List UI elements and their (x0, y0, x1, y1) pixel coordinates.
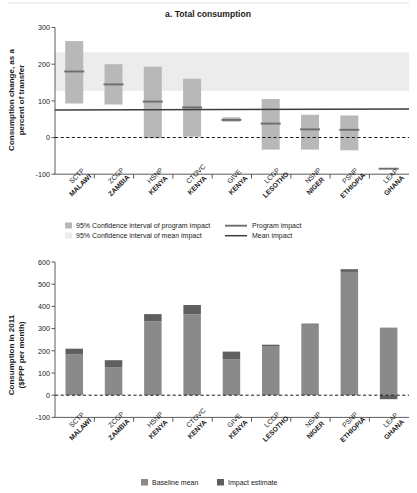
cat-b-3: CTOVC KENYA (180, 407, 213, 440)
bar-impact-zcgp-zambia (105, 360, 123, 367)
panel-b-ytick-300: 300 (38, 324, 50, 333)
panel-b-ytick-200: 200 (38, 347, 50, 356)
panel-a: a. Total consumption Consumption change,… (7, 9, 409, 240)
legend-label-mean-ci: 95% Confidence interval of mean impact (76, 232, 202, 240)
panel-b-ytick-600: 600 (38, 258, 50, 267)
panel-a-legend: 95% Confidence interval of program impac… (65, 222, 301, 240)
bar-impact-psnp-ethiopia (341, 269, 359, 272)
panel-b-y-ticks: 600 500 400 300 200 100 0 -100 (36, 258, 55, 422)
panel-b-ytick-0: 0 (46, 391, 50, 400)
legend-swatch-program-ci (65, 223, 72, 229)
cat-a-8: LEAP GHANA (376, 167, 406, 197)
legend-label-mean-impact: Mean impact (252, 232, 292, 240)
bar-impact-lcgp-lesotho (262, 345, 280, 346)
cat-b-0: SCTP MALAWI (61, 410, 92, 441)
panel-a-y-ticks: 300 200 100 0 -100 (36, 23, 55, 179)
panel-a-ytick-100: 100 (38, 97, 50, 106)
cat-b-6: NSNP NIGER (299, 410, 329, 440)
panel-b-y-axis-title-line1: Consumption in 2011 (7, 314, 16, 395)
legend-swatch-mean-ci (65, 233, 72, 239)
ci-box-nsnp-niger (301, 115, 319, 150)
panel-b-ytick-neg100: -100 (36, 413, 50, 422)
bar-baseline-sctp-malawi (66, 354, 84, 395)
panel-a-category-labels: SCTP MALAWI ZCGP ZAMBIA HSNP KENYA CTOVC… (61, 163, 405, 200)
cat-b-2: HSNP KENYA (141, 410, 171, 440)
cat-a-0: SCTP MALAWI (61, 166, 92, 197)
bar-baseline-psnp-ethiopia (341, 272, 359, 395)
cat-a-5: LCGP LESOTHO (255, 164, 290, 199)
bar-baseline-ctovc-kenya (183, 314, 201, 395)
bar-impact-sctp-malawi (66, 349, 84, 355)
panel-b: Consumption in 2011 ($PPP per month) 600… (7, 258, 409, 487)
legend-label-program-ci: 95% Confidence interval of program impac… (76, 222, 210, 230)
bar-impact-give-kenya (223, 352, 241, 360)
ci-box-psnp-ethiopia (340, 116, 358, 151)
panel-a-y-axis-title-line2: percent of transfer (17, 65, 26, 136)
bar-impact-hsnp-kenya (144, 314, 162, 321)
bar-impact-nsnp-niger (301, 324, 319, 325)
panel-b-category-labels: SCTP MALAWI ZCGP ZAMBIA HSNP KENYA CTOVC… (61, 407, 405, 444)
panel-a-ytick-200: 200 (38, 60, 50, 69)
panel-b-ytick-100: 100 (38, 369, 50, 378)
bar-impact-ctovc-kenya (183, 305, 201, 314)
panel-b-bars (66, 269, 398, 399)
legend-label-program-impact: Program impact (252, 222, 301, 230)
bar-baseline-leap-ghana (380, 328, 398, 396)
panel-b-legend: Baseline mean Impact estimate (141, 479, 278, 487)
legend-label-impact-estimate: Impact estimate (228, 479, 278, 487)
panel-a-y-axis-title: Consumption change, as a percent of tran… (7, 49, 26, 151)
cat-b-4: GIVE KENYA (221, 412, 249, 440)
bar-baseline-nsnp-niger (301, 325, 319, 396)
panel-b-ytick-400: 400 (38, 302, 50, 311)
panel-b-y-axis-title: Consumption in 2011 ($PPP per month) (7, 314, 26, 395)
cat-a-7: PSNP ETHIOPIA (332, 165, 366, 199)
cat-b-5: LCGP LESOTHO (255, 408, 290, 443)
legend-label-baseline-mean: Baseline mean (152, 479, 198, 486)
panel-a-y-axis-title-line1: Consumption change, as a (7, 49, 16, 151)
bar-baseline-hsnp-kenya (144, 321, 162, 395)
mean-impact-line (55, 109, 409, 110)
panel-a-ytick-300: 300 (38, 23, 50, 32)
bar-baseline-zcgp-zambia (105, 368, 123, 396)
bar-baseline-give-kenya (223, 359, 241, 395)
legend-swatch-impact-estimate (217, 479, 224, 486)
panel-a-ytick-0: 0 (46, 133, 50, 142)
bar-impact-leap-ghana (380, 395, 398, 399)
cat-b-1: ZCGP ZAMBIA (100, 410, 131, 441)
cat-a-6: NSNP NIGER (299, 166, 329, 196)
figure-container: a. Total consumption Consumption change,… (0, 0, 417, 493)
cat-a-4: GIVE KENYA (221, 168, 249, 196)
two-panel-consumption-figure: a. Total consumption Consumption change,… (0, 0, 417, 493)
panel-a-ytick-neg100: -100 (36, 170, 50, 179)
cat-a-3: CTOVC KENYA (180, 163, 213, 196)
panel-b-y-axis-title-line2: ($PPP per month) (17, 321, 26, 388)
panel-b-ytick-500: 500 (38, 280, 50, 289)
cat-b-7: PSNP ETHIOPIA (332, 409, 366, 443)
cat-b-8: LEAP GHANA (376, 411, 406, 441)
bar-baseline-lcgp-lesotho (262, 346, 280, 395)
panel-a-title: a. Total consumption (165, 9, 251, 19)
cat-a-1: ZCGP ZAMBIA (100, 166, 131, 197)
cat-a-2: HSNP KENYA (141, 166, 171, 196)
legend-swatch-baseline-mean (141, 479, 148, 486)
